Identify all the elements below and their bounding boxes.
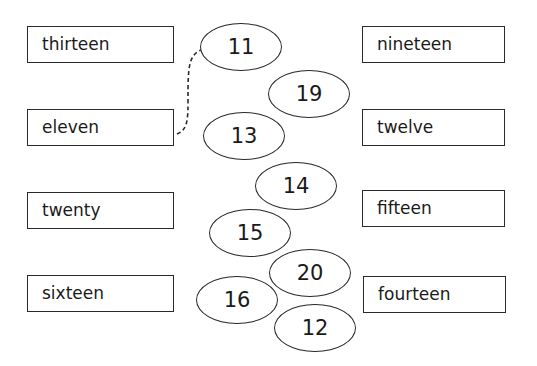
word-box-eleven[interactable]: eleven — [27, 109, 174, 146]
number-oval-20[interactable]: 20 — [269, 249, 351, 297]
number-oval-15[interactable]: 15 — [209, 209, 291, 257]
word-box-twenty[interactable]: twenty — [27, 192, 174, 229]
number-oval-19[interactable]: 19 — [268, 70, 350, 118]
word-box-fifteen[interactable]: fifteen — [362, 190, 505, 227]
word-box-fourteen[interactable]: fourteen — [363, 276, 506, 313]
word-box-sixteen[interactable]: sixteen — [27, 275, 174, 312]
word-box-nineteen[interactable]: nineteen — [362, 26, 505, 63]
number-oval-11[interactable]: 11 — [200, 23, 282, 71]
number-oval-13[interactable]: 13 — [203, 112, 285, 160]
number-oval-14[interactable]: 14 — [255, 162, 337, 210]
word-box-thirteen[interactable]: thirteen — [27, 26, 174, 63]
number-oval-12[interactable]: 12 — [274, 304, 356, 352]
number-oval-16[interactable]: 16 — [196, 276, 278, 324]
word-box-twelve[interactable]: twelve — [362, 109, 505, 146]
